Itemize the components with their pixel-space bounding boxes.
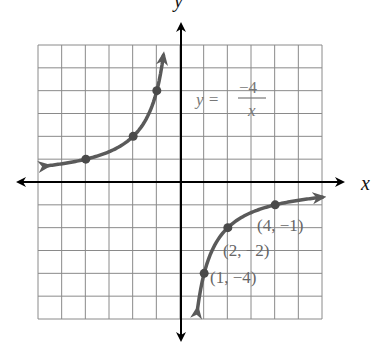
point-label-4-neg1: (4, −1) [257, 216, 303, 235]
data-point [271, 200, 280, 209]
data-point [200, 269, 209, 278]
curve-left-branch [48, 55, 163, 166]
data-point [81, 155, 90, 164]
y-axis-label: y [172, 0, 183, 12]
data-point [129, 132, 138, 141]
x-axis-label: x [360, 172, 370, 194]
equation-lhs: y = [194, 90, 219, 109]
data-point [152, 86, 161, 95]
data-point [223, 223, 232, 232]
point-label-2-neg2: (2, −2) [223, 241, 269, 260]
equation-numerator: −4 [239, 78, 258, 97]
point-label-1-neg4: (1, −4) [210, 268, 256, 287]
equation-denominator: x [247, 101, 256, 120]
hyperbola-chart: x y y = −4 x (4, −1) (2, −2) (1, −4) [0, 0, 379, 348]
